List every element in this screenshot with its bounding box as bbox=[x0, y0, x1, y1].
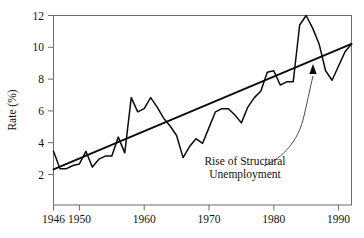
y-tick-label-4: 4 bbox=[38, 137, 44, 149]
unemployment-rate-chart: 12 10 8 6 4 2 Rate (%) 1946 1950 1960 19… bbox=[0, 0, 364, 238]
x-tick-label-1990: 1990 bbox=[327, 213, 350, 225]
x-tick-label-1946: 1946 bbox=[42, 213, 65, 225]
y-tick-label-6: 6 bbox=[38, 105, 44, 117]
annotation-line-1: Rise of Structural bbox=[204, 155, 285, 167]
chart-svg: 12 10 8 6 4 2 Rate (%) 1946 1950 1960 19… bbox=[0, 0, 364, 238]
annotation-line-2: Unemployment bbox=[209, 168, 281, 181]
y-tick-label-2: 2 bbox=[38, 169, 44, 181]
y-tick-label-8: 8 bbox=[38, 73, 44, 85]
y-axis-title: Rate (%) bbox=[6, 89, 19, 130]
x-tick-label-1950: 1950 bbox=[68, 213, 91, 225]
x-tick-label-1970: 1970 bbox=[198, 213, 221, 225]
chart-background bbox=[0, 0, 364, 238]
x-tick-label-1960: 1960 bbox=[133, 213, 156, 225]
y-tick-label-10: 10 bbox=[33, 41, 45, 53]
y-tick-label-12: 12 bbox=[33, 10, 45, 22]
x-tick-label-1980: 1980 bbox=[262, 213, 285, 225]
